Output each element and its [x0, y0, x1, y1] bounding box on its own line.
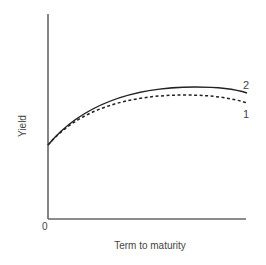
yield-curve-chart: 2 1 0 Term to maturity Yield: [0, 0, 266, 265]
y-axis-label: Yield: [17, 115, 28, 137]
curve-1-dashed: [48, 95, 247, 145]
curve-1-label: 1: [243, 108, 249, 120]
curve-2-label: 2: [243, 79, 249, 91]
origin-label: 0: [42, 221, 48, 232]
chart-canvas: 2 1 0 Term to maturity Yield: [0, 0, 266, 265]
curve-2-solid: [48, 87, 247, 145]
x-axis-label: Term to maturity: [114, 240, 186, 251]
